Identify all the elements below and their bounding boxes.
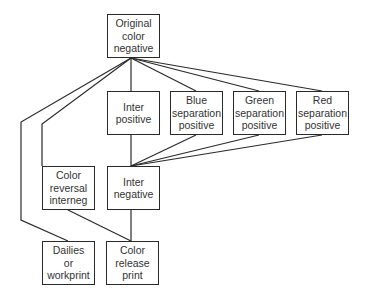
edge-original-green	[131, 58, 259, 91]
edge-original-blue	[131, 58, 196, 91]
node-label: Inter negative	[114, 176, 154, 201]
node-dailies-or-workprint: Dailies or workprint	[42, 241, 95, 285]
node-red-separation-positive: Red separation positive	[296, 91, 349, 135]
node-label: Blue separation positive	[172, 94, 221, 132]
node-label: Green separation positive	[235, 94, 284, 132]
node-label: Inter positive	[116, 101, 152, 126]
edge-red-interneg	[131, 135, 322, 166]
node-label: Original color negative	[114, 17, 154, 55]
node-label: Color reversal interneg	[50, 169, 88, 207]
node-label: Dailies or workprint	[47, 244, 90, 282]
edge-original-red	[131, 58, 322, 91]
edge-colorrev-release	[68, 210, 131, 241]
node-blue-separation-positive: Blue separation positive	[170, 91, 223, 135]
node-label: Color release print	[115, 244, 149, 282]
edge-blue-interneg	[131, 135, 196, 166]
node-inter-negative: Inter negative	[107, 166, 160, 210]
node-color-reversal-interneg: Color reversal interneg	[42, 166, 95, 210]
edge-green-interneg	[131, 135, 259, 166]
node-label: Red separation positive	[298, 94, 347, 132]
node-original-color-negative: Original color negative	[107, 14, 160, 58]
node-inter-positive: Inter positive	[107, 91, 160, 135]
node-color-release-print: Color release print	[106, 241, 159, 285]
node-green-separation-positive: Green separation positive	[233, 91, 286, 135]
